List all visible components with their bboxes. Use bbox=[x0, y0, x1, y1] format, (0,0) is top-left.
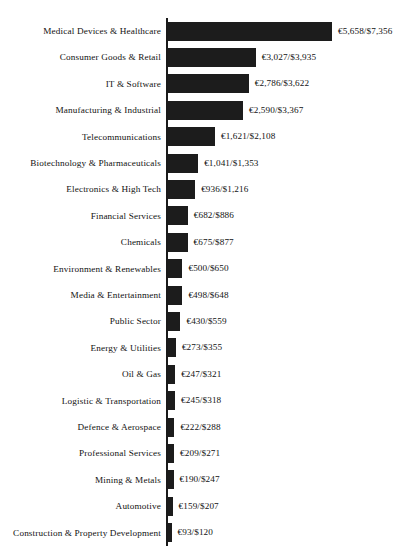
category-label: Manufacturing & Industrial bbox=[56, 97, 166, 123]
bar-row: Defence & Aerospace€222/$288 bbox=[0, 414, 415, 440]
bar bbox=[168, 286, 182, 305]
bar-value-label: €93/$120 bbox=[172, 523, 214, 542]
bar-row: Automotive€159/$207 bbox=[0, 493, 415, 519]
bar-and-value: €2,590/$3,367 bbox=[168, 97, 303, 123]
bar-value-label: €222/$288 bbox=[174, 418, 220, 437]
bar-row: Chemicals€675/$877 bbox=[0, 229, 415, 255]
bar-and-value: €2,786/$3,622 bbox=[168, 71, 309, 97]
bar-and-value: €498/$648 bbox=[168, 282, 229, 308]
bar-value-label: €5,658/$7,356 bbox=[332, 22, 392, 41]
bar bbox=[168, 312, 180, 331]
bar-and-value: €5,658/$7,356 bbox=[168, 18, 392, 44]
bar bbox=[168, 48, 256, 67]
category-label: Financial Services bbox=[91, 203, 166, 229]
bar bbox=[168, 74, 249, 93]
bar-row: Medical Devices & Healthcare€5,658/$7,35… bbox=[0, 18, 415, 44]
bar bbox=[168, 338, 176, 357]
category-label: Professional Services bbox=[79, 440, 166, 466]
bar bbox=[168, 233, 188, 252]
bar bbox=[168, 206, 188, 225]
bar-and-value: €273/$355 bbox=[168, 335, 222, 361]
bar-value-label: €498/$648 bbox=[182, 286, 228, 305]
bar-value-label: €273/$355 bbox=[176, 338, 222, 357]
bar-value-label: €2,786/$3,622 bbox=[249, 74, 309, 93]
bar-and-value: €500/$650 bbox=[168, 256, 229, 282]
category-label: Mining & Metals bbox=[95, 467, 166, 493]
bar-and-value: €247/$321 bbox=[168, 361, 221, 387]
category-label: Energy & Utilities bbox=[91, 335, 166, 361]
bar-value-label: €209/$271 bbox=[174, 444, 220, 463]
bar-row: Mining & Metals€190/$247 bbox=[0, 467, 415, 493]
bar bbox=[168, 127, 215, 146]
category-label: Telecommunications bbox=[82, 124, 166, 150]
bar-value-label: €430/$559 bbox=[180, 312, 226, 331]
bar bbox=[168, 154, 198, 173]
bar bbox=[168, 180, 195, 199]
bar-row: IT & Software€2,786/$3,622 bbox=[0, 71, 415, 97]
bar-value-label: €675/$877 bbox=[188, 233, 234, 252]
bar-and-value: €936/$1,216 bbox=[168, 176, 248, 202]
category-label: IT & Software bbox=[106, 71, 166, 97]
bar-value-label: €1,621/$2,108 bbox=[215, 127, 275, 146]
bar-and-value: €190/$247 bbox=[168, 467, 220, 493]
bar-and-value: €430/$559 bbox=[168, 308, 227, 334]
bar-and-value: €1,621/$2,108 bbox=[168, 124, 275, 150]
bar-value-label: €500/$650 bbox=[182, 259, 228, 278]
bar-and-value: €159/$207 bbox=[168, 493, 219, 519]
plot-area: Medical Devices & Healthcare€5,658/$7,35… bbox=[0, 18, 415, 546]
category-label: Logistic & Transportation bbox=[62, 388, 166, 414]
bar-row: Energy & Utilities€273/$355 bbox=[0, 335, 415, 361]
bar-row: Oil & Gas€247/$321 bbox=[0, 361, 415, 387]
bar-chart: Medical Devices & Healthcare€5,658/$7,35… bbox=[0, 0, 415, 558]
bar-row: Financial Services€682/$886 bbox=[0, 203, 415, 229]
bar-row: Biotechnology & Pharmaceuticals€1,041/$1… bbox=[0, 150, 415, 176]
bar bbox=[168, 365, 175, 384]
category-label: Environment & Renewables bbox=[53, 256, 166, 282]
category-label: Defence & Aerospace bbox=[78, 414, 166, 440]
category-label: Chemicals bbox=[121, 229, 166, 255]
bar-value-label: €190/$247 bbox=[174, 470, 220, 489]
bar-and-value: €3,027/$3,935 bbox=[168, 44, 316, 70]
bar-row: Construction & Property Development€93/$… bbox=[0, 520, 415, 546]
category-label: Oil & Gas bbox=[122, 361, 166, 387]
bar bbox=[168, 22, 332, 41]
bar-row: Environment & Renewables€500/$650 bbox=[0, 256, 415, 282]
bar-row: Media & Entertainment€498/$648 bbox=[0, 282, 415, 308]
bar-value-label: €936/$1,216 bbox=[195, 180, 248, 199]
bar-row: Logistic & Transportation€245/$318 bbox=[0, 388, 415, 414]
bar bbox=[168, 391, 175, 410]
bar-and-value: €1,041/$1,353 bbox=[168, 150, 259, 176]
bar-row: Electronics & High Tech€936/$1,216 bbox=[0, 176, 415, 202]
bar-and-value: €675/$877 bbox=[168, 229, 234, 255]
bar-row: Public Sector€430/$559 bbox=[0, 308, 415, 334]
category-label: Medical Devices & Healthcare bbox=[43, 18, 166, 44]
bar-and-value: €245/$318 bbox=[168, 388, 221, 414]
bar-and-value: €222/$288 bbox=[168, 414, 221, 440]
category-label: Electronics & High Tech bbox=[66, 176, 166, 202]
bar-row: Manufacturing & Industrial€2,590/$3,367 bbox=[0, 97, 415, 123]
bar bbox=[168, 101, 243, 120]
category-label: Automotive bbox=[116, 493, 166, 519]
category-label: Media & Entertainment bbox=[71, 282, 166, 308]
bar-and-value: €209/$271 bbox=[168, 440, 220, 466]
bar-value-label: €1,041/$1,353 bbox=[198, 154, 258, 173]
category-label: Construction & Property Development bbox=[13, 520, 166, 546]
bar-value-label: €247/$321 bbox=[175, 365, 221, 384]
bar-value-label: €682/$886 bbox=[188, 206, 234, 225]
category-label: Consumer Goods & Retail bbox=[60, 44, 166, 70]
bar-row: Consumer Goods & Retail€3,027/$3,935 bbox=[0, 44, 415, 70]
bar-value-label: €245/$318 bbox=[175, 391, 221, 410]
category-label: Biotechnology & Pharmaceuticals bbox=[30, 150, 166, 176]
bar bbox=[168, 259, 182, 278]
bar-row: Telecommunications€1,621/$2,108 bbox=[0, 124, 415, 150]
bar-value-label: €2,590/$3,367 bbox=[243, 101, 303, 120]
category-label: Public Sector bbox=[110, 308, 166, 334]
bar-value-label: €3,027/$3,935 bbox=[256, 48, 316, 67]
bar-value-label: €159/$207 bbox=[173, 497, 219, 516]
bar-and-value: €93/$120 bbox=[168, 520, 213, 546]
bar-row: Professional Services€209/$271 bbox=[0, 440, 415, 466]
bar-and-value: €682/$886 bbox=[168, 203, 234, 229]
